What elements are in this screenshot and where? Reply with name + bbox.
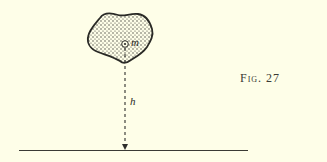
arrow-down-icon: [122, 144, 128, 150]
mass-label: m: [131, 36, 139, 48]
mass-body-blob: [88, 13, 153, 62]
height-label: h: [130, 95, 136, 107]
figure-caption: Fig. 27: [240, 71, 280, 86]
point-mass-dot-icon: [124, 43, 126, 45]
